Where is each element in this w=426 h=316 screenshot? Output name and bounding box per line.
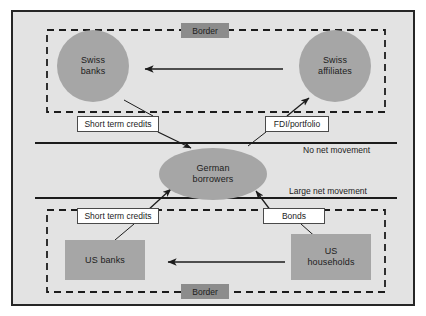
node-swiss-banks-label: Swiss banks	[81, 55, 106, 77]
node-swiss-affiliates-line1: Swiss	[323, 55, 347, 65]
callout-fdi-portfolio-label: FDI/portfolio	[274, 119, 320, 129]
node-swiss-banks-line1: Swiss	[81, 55, 105, 65]
arrow-short-term-credits-to-german-borrowers	[158, 132, 191, 148]
node-german-borrowers[interactable]: German borrowers	[159, 148, 267, 200]
node-us-households-line1: US	[325, 246, 338, 256]
callout-bonds[interactable]: Bonds	[263, 208, 325, 224]
node-us-households[interactable]: US households	[291, 234, 371, 280]
annotation-large-net-movement: Large net movement	[289, 186, 367, 196]
leader-us-banks-to-short-term-credits	[115, 224, 134, 240]
annotation-large-net-movement-label: Large net movement	[289, 186, 367, 196]
callout-bonds-label: Bonds	[282, 211, 306, 221]
diagram-canvas: Swiss banks Swiss affiliates German borr…	[0, 0, 426, 316]
callout-short-term-credits-top[interactable]: Short term credits	[77, 116, 159, 132]
node-swiss-affiliates-line2: affiliates	[318, 66, 352, 76]
node-swiss-banks[interactable]: Swiss banks	[57, 30, 129, 102]
leader-swiss-banks-to-short-term-credits	[124, 100, 153, 116]
node-german-borrowers-label: German borrowers	[193, 163, 234, 185]
callout-fdi-portfolio[interactable]: FDI/portfolio	[265, 116, 329, 132]
node-us-banks-label: US banks	[85, 255, 125, 266]
border-tag-top-label: Border	[192, 26, 218, 36]
annotation-no-net-movement: No net movement	[303, 145, 370, 155]
node-swiss-banks-line2: banks	[81, 66, 106, 76]
node-us-banks[interactable]: US banks	[65, 240, 145, 280]
diagram-frame: Swiss banks Swiss affiliates German borr…	[11, 10, 415, 306]
border-tag-bottom: Border	[181, 284, 229, 299]
node-swiss-affiliates[interactable]: Swiss affiliates	[299, 30, 371, 102]
diagram-inner-canvas: Swiss banks Swiss affiliates German borr…	[13, 12, 413, 304]
border-tag-top: Border	[181, 23, 229, 38]
callout-short-term-credits-bottom[interactable]: Short term credits	[77, 208, 159, 224]
border-tag-bottom-label: Border	[192, 287, 218, 297]
annotation-no-net-movement-label: No net movement	[303, 145, 370, 155]
node-us-households-line2: households	[307, 257, 354, 267]
callout-short-term-credits-top-label: Short term credits	[84, 119, 151, 129]
callout-short-term-credits-bottom-label: Short term credits	[84, 211, 151, 221]
arrow-fdi-portfolio-to-swiss-affiliates	[287, 98, 309, 116]
node-german-borrowers-line2: borrowers	[193, 174, 234, 184]
node-german-borrowers-line1: German	[196, 163, 229, 173]
node-us-households-label: US households	[307, 246, 354, 268]
node-swiss-affiliates-label: Swiss affiliates	[318, 55, 352, 77]
